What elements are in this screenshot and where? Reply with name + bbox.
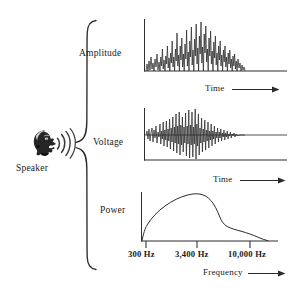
x-axis-label-time-voltage: Time	[213, 174, 232, 184]
speaking-head-icon	[34, 130, 56, 155]
diagram-canvas: Speaker Amplitude Voltage Power Time Tim…	[0, 0, 297, 294]
x-axis-label-frequency: Frequency	[203, 267, 243, 277]
voltage-waveform	[146, 109, 245, 159]
power-spectrum-curve	[142, 194, 268, 241]
time-axis-arrow-1-icon	[232, 87, 280, 93]
row-label-voltage: Voltage	[93, 137, 123, 147]
sound-wave-arcs-icon	[58, 129, 76, 159]
frequency-axis-ticks	[146, 241, 250, 248]
speaker-label: Speaker	[16, 163, 48, 173]
frequency-axis-arrow-icon	[248, 271, 286, 277]
x-axis-label-time-amplitude: Time	[205, 83, 224, 93]
time-axis-arrow-2-icon	[240, 178, 286, 184]
tick-label-10000hz: 10,000 Hz	[228, 249, 266, 259]
tick-label-300hz: 300 Hz	[128, 249, 155, 259]
row-label-amplitude: Amplitude	[79, 48, 121, 58]
tick-label-3400hz: 3,400 Hz	[175, 249, 209, 259]
row-label-power: Power	[100, 205, 125, 215]
amplitude-waveform	[146, 22, 245, 71]
